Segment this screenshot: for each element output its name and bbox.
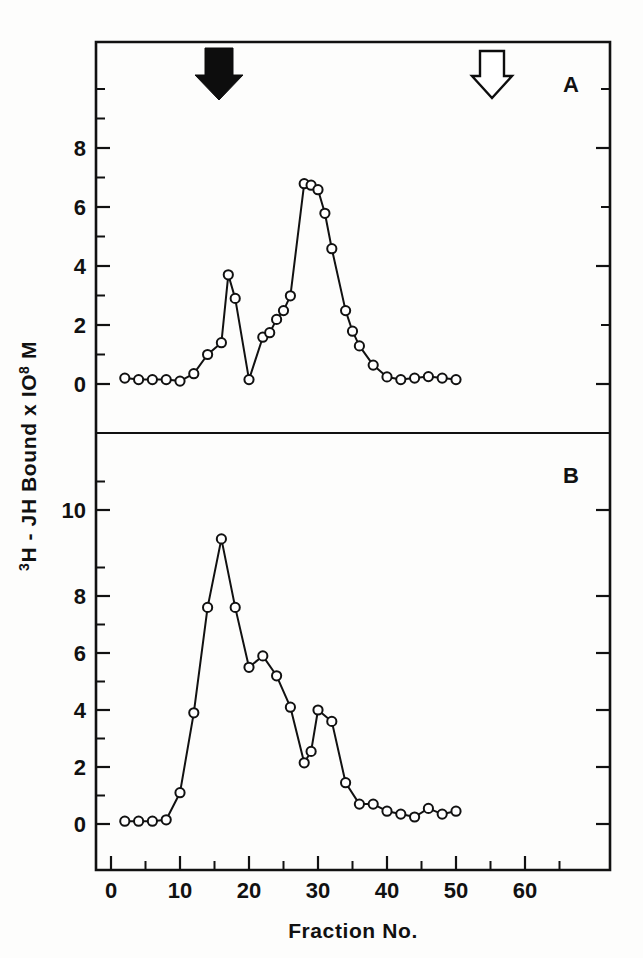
y-axis-title-sup-8: 8 [16,366,32,374]
panel-b-ytick-10: 10 [62,498,86,523]
panel-b-ytick-2: 2 [74,755,86,780]
panel-a-ytick-2: 2 [74,313,86,338]
panel-a-ytick-0: 0 [74,372,86,397]
panel-b-ytick-6: 6 [74,641,86,666]
y-axis-title-unit: M [17,341,40,366]
panel-b-ytick-4: 4 [74,698,87,723]
y-axis-title-group: 3H - JH Bound x IO8 M [16,341,40,571]
panel-a-letter: A [563,72,579,97]
panel-b-ytick-0: 0 [74,812,86,837]
panel-a-ytick-4: 4 [74,254,87,279]
panel-b-ytick-8: 8 [74,584,86,609]
y-axis-title-sup-3: 3 [16,563,32,571]
xtick-0: 0 [105,878,117,903]
xtick-20: 20 [237,878,261,903]
elution-profile-chart: 0 2 4 6 8 A [0,0,643,958]
panel-b-letter: B [563,463,579,488]
xtick-10: 10 [168,878,192,903]
panel-a-ytick-8: 8 [74,136,86,161]
x-axis-title: Fraction No. [288,919,418,942]
figure-root: 0 2 4 6 8 A [0,0,643,958]
xtick-50: 50 [444,878,468,903]
xtick-60: 60 [513,878,537,903]
svg-text:3H - JH Bound x IO8 M: 3H - JH Bound x IO8 M [16,341,40,571]
xtick-30: 30 [306,878,330,903]
panel-a-ytick-6: 6 [74,195,86,220]
xtick-40: 40 [375,878,399,903]
y-axis-title-main: H - JH Bound x IO [17,374,40,563]
